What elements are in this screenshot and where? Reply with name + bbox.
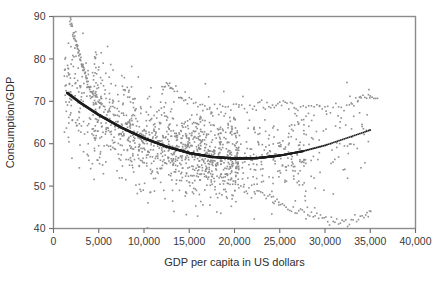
y-tick-label: 50: [34, 180, 46, 192]
x-tick-label: 5,000: [86, 235, 112, 247]
x-tick-label: 20,000: [218, 235, 250, 247]
chart-figure: 05,00010,00015,00020,00025,00030,00035,0…: [0, 0, 442, 284]
x-tick-label: 30,000: [309, 235, 341, 247]
y-tick-label: 60: [34, 137, 46, 149]
y-tick-label: 70: [34, 95, 46, 107]
y-axis-title: Consumption/GDP: [4, 77, 16, 169]
y-tick-label: 80: [34, 53, 46, 65]
y-tick-label: 40: [34, 222, 46, 234]
axis-ticks-layer: [49, 17, 416, 234]
x-tick-label: 10,000: [128, 235, 160, 247]
scatter-plot: 05,00010,00015,00020,00025,00030,00035,0…: [0, 0, 442, 284]
plot-frame: [54, 17, 416, 229]
x-tick-label: 25,000: [264, 235, 296, 247]
x-tick-label: 40,000: [399, 235, 431, 247]
fitted-curve-layer: [66, 92, 371, 160]
x-axis-title: GDP per capita in US dollars: [164, 256, 305, 268]
x-tick-label: 15,000: [173, 235, 205, 247]
x-tick-label: 0: [51, 235, 57, 247]
y-tick-label: 90: [34, 10, 46, 22]
x-tick-label: 35,000: [354, 235, 386, 247]
